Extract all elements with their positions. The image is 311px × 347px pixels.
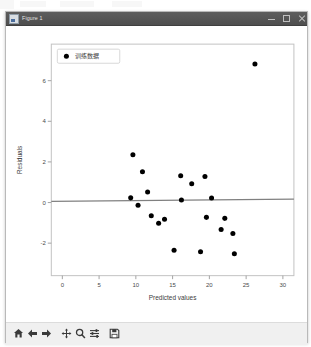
scatter-point bbox=[222, 216, 227, 221]
x-axis-tick-label: 30 bbox=[280, 282, 287, 288]
scatter-point bbox=[145, 189, 150, 194]
scatter-point bbox=[156, 221, 161, 226]
window-controls bbox=[268, 12, 305, 25]
x-axis-tick-label: 20 bbox=[206, 282, 213, 288]
scatter-point bbox=[219, 227, 224, 232]
close-button[interactable] bbox=[298, 15, 305, 22]
save-disk-icon[interactable] bbox=[108, 328, 120, 340]
scatter-point bbox=[130, 152, 135, 157]
x-axis-tick-label: 10 bbox=[132, 282, 139, 288]
scatter-point bbox=[232, 251, 237, 256]
desktop-artifact bbox=[60, 1, 94, 7]
pan-move-icon[interactable] bbox=[60, 328, 72, 340]
scatter-point bbox=[204, 215, 209, 220]
maximize-button[interactable] bbox=[283, 15, 290, 22]
x-axis-tick-label: 15 bbox=[169, 282, 176, 288]
desktop-artifact bbox=[20, 1, 46, 7]
minimize-button[interactable] bbox=[268, 15, 275, 22]
y-axis-tick-label: -2 bbox=[40, 240, 46, 246]
scatter-point bbox=[179, 198, 184, 203]
scatter-point bbox=[198, 249, 203, 254]
y-axis-label: Residuals bbox=[16, 146, 23, 174]
scatter-point bbox=[136, 203, 141, 208]
scatter-point bbox=[172, 248, 177, 253]
window-title-bar[interactable]: Figure 1 bbox=[6, 12, 307, 26]
desktop-artifact bbox=[112, 1, 142, 7]
scatter-point bbox=[189, 181, 194, 186]
forward-arrow-icon[interactable] bbox=[40, 328, 52, 340]
scatter-point bbox=[140, 169, 145, 174]
zoom-magnifier-icon[interactable] bbox=[74, 328, 86, 340]
figure-window: Figure 1 051015202530-20246Predicted val… bbox=[5, 11, 308, 343]
scatter-point bbox=[202, 174, 207, 179]
scatter-point bbox=[149, 213, 154, 218]
figure-canvas[interactable]: 051015202530-20246Predicted valuesResidu… bbox=[6, 26, 307, 322]
residual-scatter-plot: 051015202530-20246Predicted valuesResidu… bbox=[6, 26, 307, 322]
scatter-point bbox=[162, 217, 167, 222]
window-title: Figure 1 bbox=[22, 12, 43, 25]
scatter-point bbox=[209, 196, 214, 201]
x-axis-label: Predicted values bbox=[149, 294, 197, 301]
legend-label: 训练数据 bbox=[75, 53, 99, 61]
navigation-toolbar bbox=[6, 322, 307, 345]
desktop-background: Figure 1 051015202530-20246Predicted val… bbox=[0, 0, 311, 347]
back-arrow-icon[interactable] bbox=[26, 328, 38, 340]
scatter-point bbox=[230, 231, 235, 236]
x-axis-tick-label: 25 bbox=[243, 282, 250, 288]
home-icon[interactable] bbox=[12, 328, 24, 340]
scatter-point bbox=[178, 173, 183, 178]
matplotlib-figure-icon bbox=[9, 14, 19, 24]
desktop-artifact bbox=[0, 0, 14, 9]
scatter-point bbox=[252, 62, 257, 67]
legend-marker bbox=[64, 54, 69, 59]
configure-subplots-icon[interactable] bbox=[88, 328, 100, 340]
scatter-point bbox=[128, 195, 133, 200]
